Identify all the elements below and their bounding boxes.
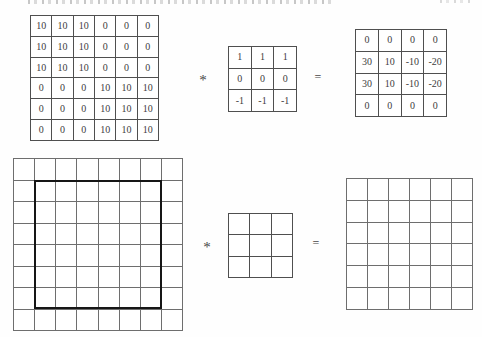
grid-cell: 10 [95,78,116,99]
grid-cell: 10 [138,120,159,141]
grid-cell [452,266,473,288]
grid-cell [77,310,98,332]
grid-cell [229,257,250,278]
grid-cell: 0 [74,99,95,120]
grid-cell [120,267,141,289]
grid-cell [14,181,35,203]
grid-cell [99,288,120,310]
grid-cell: -20 [424,74,447,96]
grid-cell [99,181,120,203]
grid-cell [14,224,35,246]
grid-cell: 10 [379,52,402,74]
grid-cell [120,288,141,310]
grid-cell [389,288,410,310]
equals-glyph: = [313,236,320,251]
grid-cell [14,267,35,289]
output-grid [346,178,473,310]
grid-cell [410,244,431,266]
grid-cell [347,223,368,245]
convolution-operator: * [200,237,214,251]
grid-cell: 10 [138,99,159,120]
grid-cell: 10 [52,58,73,79]
grid-cell: 10 [116,120,137,141]
grid-cell: 0 [229,69,252,91]
grid-cell [452,179,473,201]
grid-cell [120,159,141,181]
grid-cell [77,245,98,267]
input-matrix: 1010100001010100001010100000001010100001… [30,15,159,141]
grid-cell [14,159,35,181]
grid-cell [56,267,77,289]
grid-cell [162,245,183,267]
grid-cell: 0 [52,78,73,99]
grid-cell [35,159,56,181]
grid-cell [410,266,431,288]
grid-cell [99,245,120,267]
grid-cell: 0 [116,58,137,79]
grid-cell: 0 [356,95,379,117]
grid-cell [431,179,452,201]
grid-cell [77,267,98,289]
grid-cell: 10 [116,78,137,99]
grid-cell [431,244,452,266]
grid-cell: 0 [424,95,447,117]
grid-cell: 0 [116,16,137,37]
kernel-matrix: 111000-1-1-1 [228,46,297,112]
grid-cell: 0 [31,78,52,99]
grid-cell: -1 [229,90,252,112]
grid-cell [272,214,293,235]
grid-cell [77,288,98,310]
grid-cell [452,288,473,310]
grid-cell [141,310,162,332]
grid-cell [120,181,141,203]
grid-cell [141,159,162,181]
grid-cell [99,224,120,246]
grid-cell [250,214,271,235]
grid-cell [35,288,56,310]
grid-cell [162,224,183,246]
grid-cell [99,159,120,181]
grid-cell: -10 [402,74,425,96]
grid-cell: 10 [31,16,52,37]
grid-cell [99,310,120,332]
kernel-grid [228,213,293,278]
grid-cell [35,310,56,332]
grid-cell [431,288,452,310]
grid-cell: 0 [31,120,52,141]
grid-cell [389,266,410,288]
grid-cell [14,310,35,332]
grid-cell: -10 [402,52,425,74]
grid-cell [347,244,368,266]
grid-cell: 10 [74,58,95,79]
asterisk-glyph: * [203,239,211,256]
convolution-figure: 1010100001010100001010100000001010100001… [0,0,482,337]
grid-cell [347,201,368,223]
input-grid-wrap [13,158,183,331]
grid-cell [389,201,410,223]
grid-cell: 1 [274,47,297,69]
grid-cell [56,159,77,181]
grid-cell [250,257,271,278]
grid-cell [120,202,141,224]
grid-cell [99,202,120,224]
convolution-operator: * [196,70,210,84]
grid-cell [141,267,162,289]
grid-cell [410,288,431,310]
grid-cell [77,159,98,181]
grid-cell [141,181,162,203]
grid-cell [141,224,162,246]
grid-cell [120,245,141,267]
grid-cell [56,181,77,203]
grid-cell [162,288,183,310]
grid-cell: 0 [52,99,73,120]
grid-cell: 10 [31,37,52,58]
grid-cell [120,310,141,332]
grid-cell [272,257,293,278]
grid-cell [368,201,389,223]
equals-sign: = [311,70,325,84]
grid-cell: -1 [274,90,297,112]
grid-cell [272,235,293,256]
grid-cell [35,245,56,267]
grid-cell [452,201,473,223]
grid-cell: 0 [138,37,159,58]
